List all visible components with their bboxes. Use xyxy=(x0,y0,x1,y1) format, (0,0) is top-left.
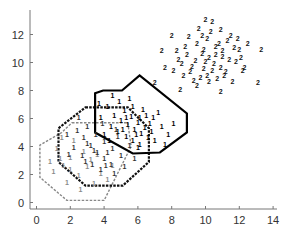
point-marker-1: 1 xyxy=(122,107,126,114)
point-marker-2: 2 xyxy=(217,40,221,47)
point-marker-2: 2 xyxy=(204,16,208,23)
point-marker-1: 1 xyxy=(163,141,167,148)
point-marker-1: 1 xyxy=(99,114,103,121)
point-marker-1: 1 xyxy=(124,133,128,140)
point-marker-1: 1 xyxy=(149,128,153,135)
point-marker-1: 1 xyxy=(77,114,81,121)
y-tick-label: 6 xyxy=(18,113,24,125)
point-marker-2: 2 xyxy=(226,37,230,44)
point-marker-1: 1 xyxy=(138,114,142,121)
point-marker-1: 1 xyxy=(111,92,115,99)
point-marker-1: 1 xyxy=(136,144,140,151)
y-tick-label: 10 xyxy=(12,57,24,69)
point-marker-1: 1 xyxy=(171,120,175,127)
point-marker-1: 1 xyxy=(107,137,111,144)
point-marker-2: 2 xyxy=(210,18,214,25)
point-marker-2: 2 xyxy=(259,46,263,53)
x-tick-label: 14 xyxy=(267,214,279,226)
point-marker-2: 2 xyxy=(202,65,206,72)
point-marker-2: 2 xyxy=(227,56,231,63)
point-marker-1: 1 xyxy=(55,145,59,152)
point-marker-2: 2 xyxy=(234,58,238,65)
point-marker-1: 1 xyxy=(51,168,55,175)
point-marker-1: 1 xyxy=(127,95,131,102)
point-marker-2: 2 xyxy=(202,46,206,53)
point-marker-1: 1 xyxy=(85,140,89,147)
point-marker-1: 1 xyxy=(92,180,96,187)
point-marker-1: 1 xyxy=(58,155,62,162)
point-marker-2: 2 xyxy=(188,68,192,75)
point-marker-2: 2 xyxy=(153,79,157,86)
point-marker-2: 2 xyxy=(193,57,197,64)
point-marker-1: 1 xyxy=(97,100,101,107)
point-marker-1: 1 xyxy=(122,163,126,170)
point-marker-1: 1 xyxy=(106,176,110,183)
point-marker-2: 2 xyxy=(219,64,223,71)
point-marker-1: 1 xyxy=(151,114,155,121)
point-marker-1: 1 xyxy=(119,117,123,124)
point-marker-1: 1 xyxy=(153,137,157,144)
point-marker-1: 1 xyxy=(119,152,123,159)
point-marker-1: 1 xyxy=(106,103,110,110)
point-marker-1: 1 xyxy=(117,98,121,105)
point-marker-1: 1 xyxy=(144,112,148,119)
point-marker-1: 1 xyxy=(60,134,64,141)
point-marker-1: 1 xyxy=(62,162,66,169)
point-marker-1: 1 xyxy=(99,166,103,173)
x-tick-label: 4 xyxy=(101,214,107,226)
point-marker-2: 2 xyxy=(177,56,181,63)
point-marker-1: 1 xyxy=(65,179,69,186)
point-marker-2: 2 xyxy=(175,47,179,54)
point-marker-2: 2 xyxy=(204,58,208,65)
point-marker-2: 2 xyxy=(205,35,209,42)
point-marker-2: 2 xyxy=(214,51,218,58)
point-marker-1: 1 xyxy=(133,155,137,162)
point-marker-2: 2 xyxy=(232,44,236,51)
x-tick-label: 8 xyxy=(169,214,175,226)
point-marker-2: 2 xyxy=(212,60,216,67)
point-marker-1: 1 xyxy=(112,170,116,177)
point-marker-1: 1 xyxy=(84,158,88,165)
point-marker-2: 2 xyxy=(214,43,218,50)
point-marker-2: 2 xyxy=(236,35,240,42)
point-marker-1: 1 xyxy=(75,127,79,134)
point-marker-1: 1 xyxy=(104,162,108,169)
point-marker-1: 1 xyxy=(72,137,76,144)
y-tick-label: 4 xyxy=(18,141,24,153)
y-tick-label: 12 xyxy=(12,29,24,41)
point-marker-1: 1 xyxy=(143,124,147,131)
point-marker-2: 2 xyxy=(195,40,199,47)
point-marker-1: 1 xyxy=(129,113,133,120)
point-marker-2: 2 xyxy=(195,82,199,89)
point-marker-1: 1 xyxy=(102,138,106,145)
point-marker-2: 2 xyxy=(185,51,189,58)
y-tick-label: 0 xyxy=(18,197,24,209)
point-marker-1: 1 xyxy=(166,131,170,138)
point-marker-1: 1 xyxy=(160,123,164,130)
point-marker-2: 2 xyxy=(187,33,191,40)
x-tick-label: 12 xyxy=(233,214,245,226)
point-marker-1: 1 xyxy=(131,103,135,110)
point-marker-2: 2 xyxy=(163,64,167,71)
point-marker-2: 2 xyxy=(178,86,182,93)
point-marker-2: 2 xyxy=(239,54,243,61)
point-marker-2: 2 xyxy=(210,67,214,74)
point-marker-1: 1 xyxy=(94,131,98,138)
point-marker-2: 2 xyxy=(170,32,174,39)
point-marker-2: 2 xyxy=(182,72,186,79)
point-marker-1: 1 xyxy=(77,172,81,179)
point-marker-1: 1 xyxy=(68,166,72,173)
point-marker-2: 2 xyxy=(198,74,202,81)
point-marker-1: 1 xyxy=(109,123,113,130)
point-marker-1: 1 xyxy=(121,126,125,133)
point-marker-1: 1 xyxy=(92,147,96,154)
point-marker-2: 2 xyxy=(183,43,187,50)
point-marker-1: 1 xyxy=(156,109,160,116)
point-marker-1: 1 xyxy=(116,128,120,135)
point-marker-1: 1 xyxy=(109,161,113,168)
point-marker-2: 2 xyxy=(171,67,175,74)
point-marker-1: 1 xyxy=(148,120,152,127)
point-marker-1: 1 xyxy=(72,144,76,151)
point-marker-1: 1 xyxy=(67,151,71,158)
point-marker-1: 1 xyxy=(112,112,116,119)
